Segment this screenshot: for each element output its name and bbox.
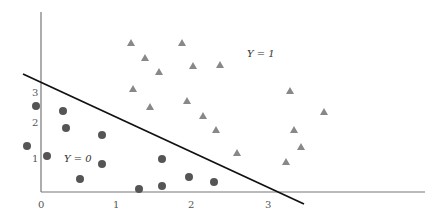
- triangle-marker: [212, 126, 220, 133]
- triangle-marker: [189, 62, 197, 69]
- x-tick-1: 1: [113, 199, 119, 210]
- y-tick-1: 1: [32, 153, 38, 164]
- triangle-marker: [282, 158, 290, 165]
- triangle-marker: [146, 103, 154, 110]
- x-tick-3: 3: [265, 199, 271, 210]
- circle-marker: [98, 160, 106, 168]
- circle-marker: [158, 182, 166, 190]
- circle-marker: [210, 178, 218, 186]
- triangle-marker: [286, 87, 294, 94]
- circle-marker: [158, 155, 166, 163]
- class-1-label: Y = 1: [247, 48, 275, 59]
- x-tick-0: 0: [38, 199, 44, 210]
- triangle-marker: [178, 39, 186, 46]
- triangle-marker: [127, 39, 135, 46]
- triangle-marker: [141, 54, 149, 61]
- plot-canvas: 0 1 2 3 1 2 3 Y = 0 Y = 1: [0, 0, 446, 215]
- circle-marker: [185, 173, 193, 181]
- triangle-marker: [183, 97, 191, 104]
- triangle-marker: [155, 68, 163, 75]
- class-1-points: [127, 39, 328, 165]
- y-tick-3: 3: [32, 87, 38, 98]
- triangle-marker: [320, 108, 328, 115]
- triangle-marker: [129, 85, 137, 92]
- circle-marker: [59, 107, 67, 115]
- x-tick-2: 2: [188, 199, 194, 210]
- scatter-diagram: 0 1 2 3 1 2 3 Y = 0 Y = 1: [0, 0, 446, 215]
- y-tick-2: 2: [32, 117, 38, 128]
- circle-marker: [98, 131, 106, 139]
- triangle-marker: [290, 126, 298, 133]
- circle-marker: [32, 102, 40, 110]
- circle-marker: [76, 175, 84, 183]
- circle-marker: [43, 152, 51, 160]
- triangle-marker: [233, 149, 241, 156]
- circle-marker: [135, 185, 143, 193]
- class-0-points: [23, 102, 218, 193]
- triangle-marker: [297, 143, 305, 150]
- circle-marker: [62, 124, 70, 132]
- circle-marker: [23, 142, 31, 150]
- triangle-marker: [199, 112, 207, 119]
- triangle-marker: [216, 61, 224, 68]
- class-0-label: Y = 0: [64, 153, 92, 164]
